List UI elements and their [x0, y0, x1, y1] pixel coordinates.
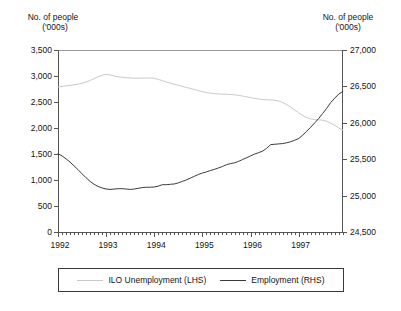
legend-line-swatch — [77, 280, 103, 281]
plot-area — [0, 0, 401, 311]
legend-entries: ILO Unemployment (LHS)Employment (RHS) — [59, 269, 343, 291]
axes-group — [54, 50, 347, 237]
legend-label: Employment (RHS) — [251, 275, 324, 285]
legend-item[interactable]: Employment (RHS) — [220, 275, 324, 285]
legend-line-swatch — [220, 280, 246, 281]
chart-container: No. of people ('000s) No. of people ('00… — [0, 0, 401, 311]
legend-item[interactable]: ILO Unemployment (LHS) — [77, 275, 206, 285]
series-group — [58, 74, 343, 189]
legend-box: ILO Unemployment (LHS)Employment (RHS) — [58, 268, 344, 292]
series-line-employment — [58, 92, 343, 190]
legend-label: ILO Unemployment (LHS) — [108, 275, 206, 285]
series-line-ilo-unemployment — [58, 74, 343, 130]
